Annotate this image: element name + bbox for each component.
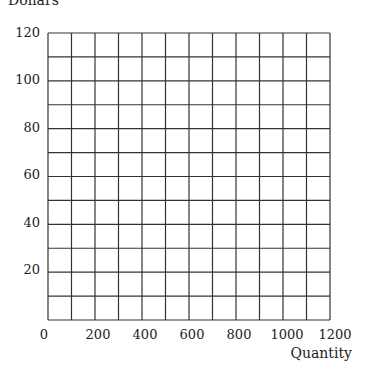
x-tick-800: 800 bbox=[227, 327, 252, 342]
grid-plot bbox=[0, 0, 366, 383]
x-tick-600: 600 bbox=[180, 327, 205, 342]
x-tick-0: 0 bbox=[40, 327, 48, 342]
x-tick-1200: 1200 bbox=[318, 327, 351, 342]
x-tick-400: 400 bbox=[133, 327, 158, 342]
x-tick-1000: 1000 bbox=[270, 327, 303, 342]
x-axis-label: Quantity bbox=[291, 345, 353, 361]
x-tick-200: 200 bbox=[86, 327, 111, 342]
